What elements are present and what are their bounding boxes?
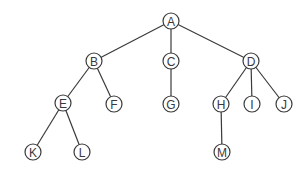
node-c: C xyxy=(163,53,179,69)
node-g: G xyxy=(163,96,179,112)
node-f: F xyxy=(106,96,122,112)
node-h: H xyxy=(213,96,229,112)
node-label: J xyxy=(281,98,287,112)
node-label: I xyxy=(250,98,253,112)
tree-edges xyxy=(33,21,284,152)
node-label: K xyxy=(29,146,37,160)
node-d: D xyxy=(243,53,259,69)
node-k: K xyxy=(25,144,41,160)
node-label: E xyxy=(59,97,67,111)
node-label: B xyxy=(90,55,98,69)
node-m: M xyxy=(214,144,230,160)
node-label: G xyxy=(166,98,175,112)
edge-a-b xyxy=(94,21,171,61)
node-i: I xyxy=(244,96,260,112)
node-b: B xyxy=(86,53,102,69)
tree-diagram: ABCDEFGHIJKLM xyxy=(0,0,307,175)
node-e: E xyxy=(55,95,71,111)
node-l: L xyxy=(74,144,90,160)
node-label: A xyxy=(167,15,175,29)
node-label: L xyxy=(79,146,86,160)
node-label: D xyxy=(247,55,256,69)
node-label: C xyxy=(167,55,176,69)
node-label: H xyxy=(217,98,226,112)
node-j: J xyxy=(276,96,292,112)
edge-a-d xyxy=(171,21,251,61)
node-a: A xyxy=(163,13,179,29)
node-label: F xyxy=(110,98,117,112)
node-label: M xyxy=(217,146,227,160)
